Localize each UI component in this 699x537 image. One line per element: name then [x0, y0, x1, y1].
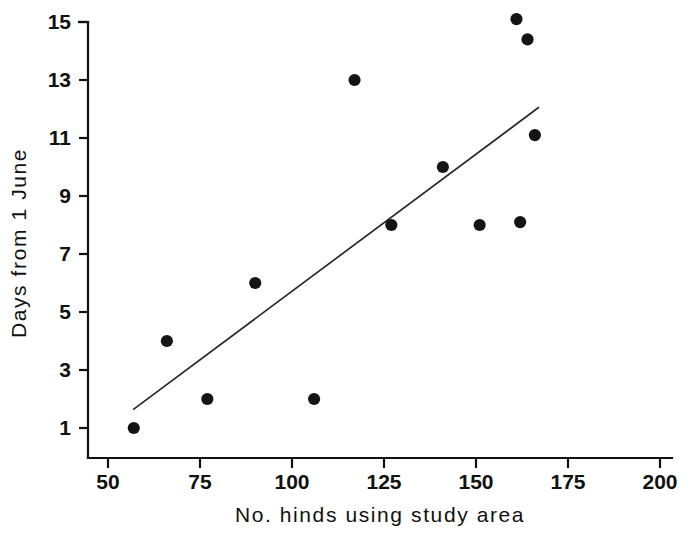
data-point: [521, 33, 533, 45]
data-points: [128, 13, 541, 434]
regression-line-path: [134, 108, 539, 410]
y-tick-label: 9: [59, 184, 71, 207]
scatter-plot-figure: 13579111315 5075100125150175200 Days fro…: [0, 0, 699, 537]
x-tick-label: 200: [642, 470, 677, 493]
x-tick-label: 100: [274, 470, 309, 493]
x-tick-label: 175: [550, 470, 585, 493]
data-point: [201, 393, 213, 405]
x-tick-label: 75: [188, 470, 212, 493]
y-axis-title: Days from 1 June: [7, 148, 30, 338]
data-point: [128, 422, 140, 434]
x-axis-title: No. hinds using study area: [235, 503, 525, 526]
data-point: [510, 13, 522, 25]
y-tick-label: 7: [59, 242, 71, 265]
plot-canvas: 13579111315 5075100125150175200 Days fro…: [0, 0, 699, 537]
x-tick-label: 125: [366, 470, 401, 493]
x-tick-label: 50: [96, 470, 119, 493]
y-tick-label: 3: [59, 358, 71, 381]
data-point: [437, 161, 449, 173]
x-tick-labels: 5075100125150175200: [96, 470, 677, 493]
tick-marks: [79, 22, 660, 468]
data-point: [385, 219, 397, 231]
y-tick-label: 1: [59, 416, 71, 439]
data-point: [529, 129, 541, 141]
y-tick-label: 5: [59, 300, 71, 323]
y-tick-label: 11: [49, 126, 72, 149]
y-tick-label: 15: [48, 10, 72, 33]
data-point: [514, 216, 526, 228]
x-tick-label: 150: [458, 470, 493, 493]
y-tick-label: 13: [48, 68, 71, 91]
regression-line: [134, 108, 539, 410]
data-point: [474, 219, 486, 231]
y-tick-labels: 13579111315: [48, 10, 72, 439]
data-point: [308, 393, 320, 405]
data-point: [161, 335, 173, 347]
data-point: [249, 277, 261, 289]
data-point: [348, 74, 360, 86]
axes: [79, 22, 672, 458]
